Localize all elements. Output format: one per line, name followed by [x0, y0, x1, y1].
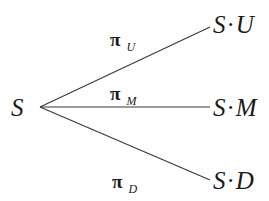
prob-middle-symbol: π: [110, 83, 120, 104]
branch-line-down: [40, 107, 210, 180]
node-down-base: S: [213, 167, 226, 194]
node-middle-factor: M: [236, 94, 257, 121]
node-up-sep: ·: [226, 11, 236, 38]
trinomial-tree-diagram: S S·U S·M S·D πU πM πD: [0, 0, 269, 201]
prob-middle-label: πM: [110, 84, 136, 103]
prob-middle-subscript: M: [126, 94, 136, 108]
node-middle-sep: ·: [226, 94, 236, 121]
prob-up-symbol: π: [110, 29, 120, 50]
node-down-factor: D: [236, 167, 254, 194]
prob-down-subscript: D: [128, 182, 137, 196]
node-up-base: S: [213, 11, 226, 38]
prob-down-label: πD: [112, 172, 137, 191]
node-up-label: S·U: [213, 12, 254, 37]
node-down-sep: ·: [226, 167, 236, 194]
node-middle-base: S: [213, 94, 226, 121]
prob-up-subscript: U: [126, 40, 135, 54]
node-middle-label: S·M: [213, 95, 257, 120]
prob-down-symbol: π: [112, 171, 122, 192]
prob-up-label: πU: [110, 30, 135, 49]
root-node-label: S: [11, 95, 24, 120]
node-up-factor: U: [236, 11, 254, 38]
node-down-label: S·D: [213, 168, 254, 193]
